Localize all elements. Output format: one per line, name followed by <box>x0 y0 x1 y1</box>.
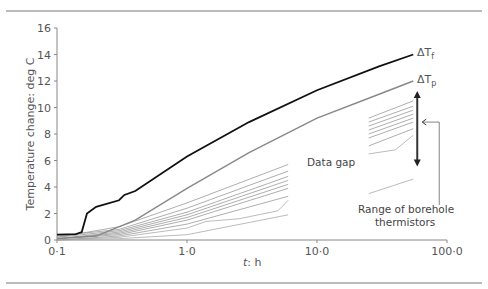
label-dTp: ΔTp <box>417 73 436 88</box>
series-borehole-6 <box>369 122 414 138</box>
x-tick-label: 0·1 <box>48 245 66 258</box>
y-tick-label: 16 <box>37 22 51 35</box>
x-tick-label: 10·0 <box>305 245 330 258</box>
y-tick-label: 8 <box>44 128 51 141</box>
y-axis-label: Temperature change: deg C <box>24 57 37 211</box>
label-dTf: ΔTf <box>417 46 434 61</box>
label-range-2: thermistors <box>375 216 435 228</box>
y-tick-label: 4 <box>44 181 51 194</box>
range-callout <box>422 119 439 205</box>
series-borehole-4 <box>369 114 414 130</box>
label-data-gap: Data gap <box>307 156 356 168</box>
range-arrow <box>414 91 421 167</box>
x-tick-label: 100·0 <box>431 245 463 258</box>
y-tick-label: 6 <box>44 155 51 168</box>
series-borehole-1 <box>369 101 414 118</box>
y-tick-label: 2 <box>44 208 51 221</box>
series-borehole-9 <box>369 179 414 194</box>
series-borehole-8 <box>369 135 414 154</box>
y-tick-label: 12 <box>37 75 51 88</box>
temperature-chart: 02468101214160·11·010·0100·0 ΔTf ΔTp Dat… <box>0 0 488 289</box>
series-borehole-2 <box>369 106 414 122</box>
series-ΔTp <box>57 81 413 239</box>
label-range-1: Range of borehole <box>358 203 454 215</box>
y-tick-label: 14 <box>37 49 51 62</box>
series-borehole-3 <box>57 176 288 237</box>
x-axis-label: t: h <box>243 256 262 269</box>
x-tick-label: 1·0 <box>178 245 196 258</box>
series-borehole-3 <box>369 110 414 126</box>
y-tick-label: 10 <box>37 102 51 115</box>
